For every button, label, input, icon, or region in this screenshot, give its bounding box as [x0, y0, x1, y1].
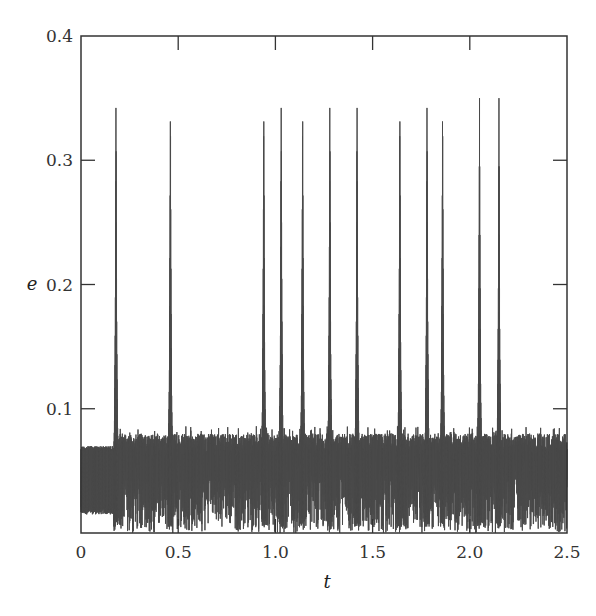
x-tick-label: 2.5 [553, 542, 580, 562]
y-tick-label: 0.3 [46, 150, 73, 170]
x-tick-label: 0.5 [165, 542, 192, 562]
y-tick-label: 0.1 [46, 399, 73, 419]
x-tick-label: 2.0 [456, 542, 483, 562]
y-axis-label: e [27, 273, 38, 294]
x-tick-label: 1.5 [359, 542, 386, 562]
data-series-e [81, 98, 567, 533]
x-tick-labels: 00.51.01.52.02.5 [76, 542, 581, 562]
y-tick-label: 0.4 [46, 26, 73, 46]
y-tick-labels: 0.10.20.30.4 [46, 26, 73, 419]
chart-canvas: 00.51.01.52.02.5 0.10.20.30.4 t e [0, 0, 596, 616]
x-axis-label: t [323, 571, 331, 592]
x-tick-label: 1.0 [262, 542, 289, 562]
plot-area [81, 98, 567, 533]
x-tick-label: 0 [76, 542, 87, 562]
y-tick-label: 0.2 [46, 275, 73, 295]
